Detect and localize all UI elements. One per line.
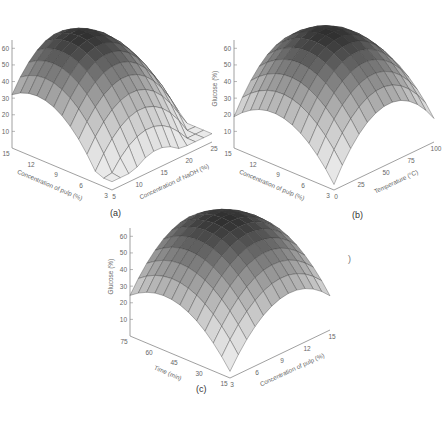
x-axis-label: Temperature (°C) [373, 168, 419, 194]
y-tick-label: 12 [249, 161, 257, 168]
z-tick-label: 30 [224, 95, 232, 102]
y-tick-label: 15 [224, 150, 232, 157]
z-tick-label: 50 [224, 61, 232, 68]
surface-plot-a: 102030405060Glucose (%)510152025Concentr… [0, 40, 220, 210]
x-tick-label: 20 [185, 157, 193, 164]
x-tick-label: 25 [210, 145, 218, 152]
z-tick-label: 20 [2, 111, 10, 118]
panel-b: 102030405060Glucose (%)0255075100Tempera… [222, 40, 442, 210]
x-tick-label: 3 [230, 381, 234, 388]
z-tick-label: 30 [2, 95, 10, 102]
z-tick-label: 20 [224, 111, 232, 118]
z-tick-label: 20 [120, 299, 128, 306]
y-tick-label: 75 [120, 338, 128, 345]
panel-label-c: (c) [196, 384, 207, 394]
panel-label-a: (a) [110, 208, 121, 218]
response-surface [130, 209, 330, 371]
z-tick-label: 50 [120, 249, 128, 256]
z-tick-label: 60 [224, 45, 232, 52]
z-tick-label: 40 [224, 78, 232, 85]
y-tick-label: 45 [170, 359, 178, 366]
x-tick-label: 100 [431, 145, 442, 152]
y-tick-label: 60 [145, 349, 153, 356]
y-axis-label: Concentration of pulp (%) [16, 168, 83, 202]
z-tick-label: 40 [120, 266, 128, 273]
z-tick-label: 60 [120, 233, 128, 240]
x-tick-label: 9 [280, 357, 284, 364]
z-tick-label: 50 [2, 61, 10, 68]
x-tick-label: 0 [334, 193, 338, 200]
z-tick-label: 10 [2, 128, 10, 135]
z-tick-label: 40 [2, 78, 10, 85]
z-tick-label: 60 [2, 45, 10, 52]
y-tick-label: 6 [301, 182, 305, 189]
y-tick-label: 9 [276, 171, 280, 178]
x-tick-label: 15 [160, 169, 168, 176]
y-tick-label: 15 [2, 150, 10, 157]
response-surface [12, 28, 212, 182]
y-tick-label: 3 [104, 192, 108, 199]
z-axis-label: Glucose (%) [107, 259, 115, 295]
x-tick-label: 5 [112, 193, 116, 200]
x-axis-label: Concentration of pulp (%) [259, 351, 326, 387]
z-tick-label: 10 [120, 316, 128, 323]
z-tick-label: 10 [224, 128, 232, 135]
stray-parenthesis: ) [348, 254, 351, 264]
surface-plot-c: 102030405060Glucose (%)3691215Concentrat… [118, 228, 338, 398]
x-tick-label: 50 [382, 169, 390, 176]
x-tick-label: 12 [303, 345, 311, 352]
y-tick-label: 6 [79, 182, 83, 189]
y-tick-label: 15 [220, 380, 228, 387]
panel-c: 102030405060Glucose (%)3691215Concentrat… [118, 228, 338, 398]
panel-label-b: (b) [352, 210, 363, 220]
y-tick-label: 3 [326, 192, 330, 199]
y-axis-label: Time (min) [153, 364, 183, 382]
y-tick-label: 9 [54, 171, 58, 178]
z-axis-label: Glucose (%) [211, 71, 219, 107]
surface-plot-b: 102030405060Glucose (%)0255075100Tempera… [222, 40, 442, 210]
y-tick-label: 12 [27, 161, 35, 168]
y-tick-label: 30 [195, 370, 203, 377]
x-axis-label: Concentration of NaOH (%) [138, 162, 210, 200]
x-tick-label: 25 [357, 181, 365, 188]
x-tick-label: 6 [255, 369, 259, 376]
x-tick-label: 10 [135, 181, 143, 188]
z-tick-label: 30 [120, 283, 128, 290]
y-axis-label: Concentration of pulp (%) [238, 168, 305, 202]
x-tick-label: 75 [407, 157, 415, 164]
panel-a: 102030405060Glucose (%)510152025Concentr… [0, 40, 220, 210]
x-tick-label: 15 [328, 333, 336, 340]
